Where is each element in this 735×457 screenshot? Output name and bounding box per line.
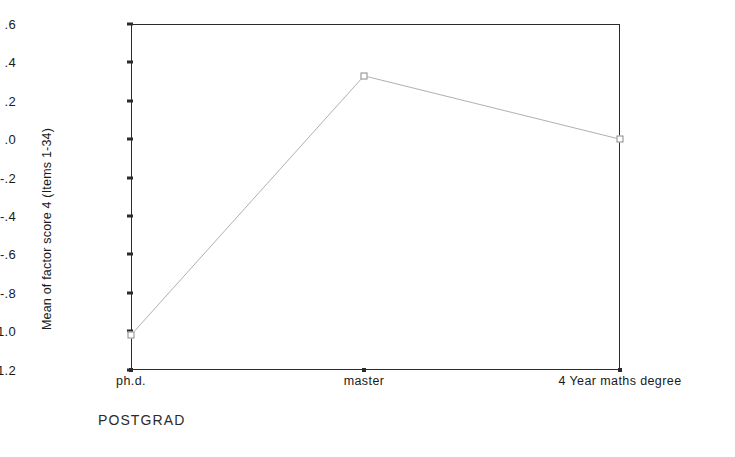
y-tick-mark <box>127 138 133 141</box>
y-tick-label: .2 <box>5 93 16 108</box>
y-tick-label: .4 <box>5 55 16 70</box>
y-tick-label: -.4 <box>0 209 16 224</box>
x-tick-mark <box>618 368 622 372</box>
y-tick-label: -.8 <box>0 285 16 300</box>
x-axis-title: POSTGRAD <box>98 412 185 428</box>
y-tick-mark <box>127 99 133 102</box>
y-tick-mark <box>127 61 133 64</box>
y-tick-label: -.6 <box>0 247 16 262</box>
y-tick-mark <box>127 253 133 256</box>
plot-area <box>131 24 620 370</box>
x-tick-label: master <box>344 374 385 388</box>
x-tick-mark <box>362 368 366 372</box>
y-tick-label: -1.0 <box>0 324 16 339</box>
y-tick-mark <box>127 330 133 333</box>
y-tick-label: .6 <box>5 17 16 32</box>
x-tick-label: 4 Year maths degree <box>559 374 682 388</box>
chart-screenshot: .6 .4 .2 .0 -.2 -.4 -.6 -.8 -1.0 -1.2 Me… <box>0 0 735 457</box>
y-tick-mark <box>127 291 133 294</box>
x-tick-mark <box>129 368 133 372</box>
y-tick-mark <box>127 176 133 179</box>
y-tick-label: -.2 <box>0 170 16 185</box>
y-axis: .6 .4 .2 .0 -.2 -.4 -.6 -.8 -1.0 -1.2 <box>0 0 131 457</box>
x-tick-label: ph.d. <box>116 374 146 388</box>
y-axis-title: Mean of factor score 4 (Items 1-34) <box>40 89 54 369</box>
y-tick-mark <box>127 23 133 26</box>
y-tick-mark <box>127 215 133 218</box>
y-tick-label: .0 <box>5 132 16 147</box>
y-tick-label: -1.2 <box>0 362 16 377</box>
